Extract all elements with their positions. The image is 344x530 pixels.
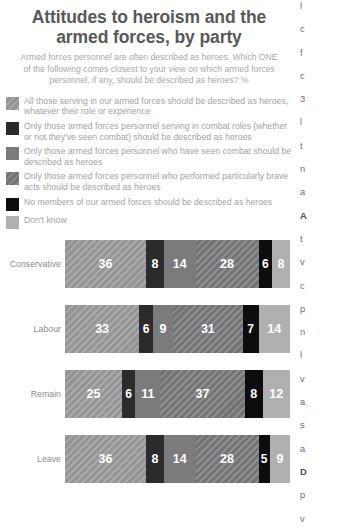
article-text-line: t <box>300 140 344 152</box>
article-text-line: l <box>300 0 344 12</box>
stacked-bar: 368142868 <box>65 240 290 288</box>
bar-chart-plot-area: Conservative368142868Labour336931714Rema… <box>0 240 298 483</box>
stacked-bar: 2561137812 <box>65 370 290 418</box>
article-text-line: a <box>300 186 344 198</box>
chart-container: Attitudes to heroism and the armed force… <box>0 0 298 530</box>
bar-segment: 6 <box>139 305 153 353</box>
bar-segment: 12 <box>263 370 290 418</box>
legend-swatch-icon <box>6 97 19 110</box>
legend-item: Don't know <box>6 215 292 229</box>
article-text-line: v <box>300 373 344 385</box>
bar-segment: 8 <box>146 240 164 288</box>
article-text-line: n <box>300 326 344 338</box>
legend-item: All those serving in our armed forces sh… <box>6 96 292 117</box>
bar-category-label: Conservative <box>0 259 65 269</box>
article-text-line: c <box>300 280 344 292</box>
article-text-line: a <box>300 396 344 408</box>
bar-segment: 11 <box>135 370 160 418</box>
article-text-line: D <box>300 466 344 478</box>
article-text-line: a <box>300 443 344 455</box>
article-text-line: s <box>300 419 344 431</box>
bar-segment: 8 <box>146 435 164 483</box>
article-text-line: l <box>300 116 344 128</box>
bar-segment: 5 <box>259 435 270 483</box>
bar-category-label: Labour <box>0 324 65 334</box>
legend-swatch-icon <box>6 216 19 229</box>
legend-item: Only those armed forces personnel who ha… <box>6 146 292 167</box>
bar-segment: 25 <box>65 370 122 418</box>
article-text-line: p <box>300 303 344 315</box>
legend-swatch-icon <box>6 147 19 160</box>
article-text-line: c <box>300 23 344 35</box>
legend-item: No members of our armed forces should be… <box>6 197 292 211</box>
legend-item-label: No members of our armed forces should be… <box>24 197 272 208</box>
chart-legend: All those serving in our armed forces sh… <box>6 96 292 229</box>
adjacent-article-column: lcfc3ltnaAtvcpnlvasaDpvra <box>300 0 344 530</box>
bar-segment: 28 <box>196 435 259 483</box>
bar-category-label: Leave <box>0 454 65 464</box>
bar-row: Remain2561137812 <box>0 370 298 418</box>
bar-segment: 36 <box>65 240 146 288</box>
legend-swatch-icon <box>6 122 19 135</box>
legend-item-label: All those serving in our armed forces sh… <box>24 96 292 117</box>
bar-segment: 31 <box>173 305 243 353</box>
article-text-line: c <box>300 70 344 82</box>
bar-segment: 9 <box>270 435 290 483</box>
article-text-line: l <box>300 349 344 361</box>
stacked-bar: 336931714 <box>65 305 290 353</box>
legend-item-label: Don't know <box>24 215 67 226</box>
bar-segment: 14 <box>164 435 196 483</box>
article-text-line: 3 <box>300 93 344 105</box>
bar-segment: 6 <box>122 370 136 418</box>
bar-segment: 9 <box>153 305 173 353</box>
legend-item-label: Only those armed forces personnel who ha… <box>24 146 292 167</box>
bar-segment: 28 <box>196 240 259 288</box>
article-text-line: A <box>300 210 344 222</box>
bar-segment: 37 <box>160 370 244 418</box>
legend-swatch-icon <box>6 172 19 185</box>
article-text-line: p <box>300 489 344 501</box>
bar-segment: 8 <box>272 240 290 288</box>
article-text-line: n <box>300 163 344 175</box>
page-title: Attitudes to heroism and the armed force… <box>22 7 276 47</box>
article-text-line: v <box>300 513 344 525</box>
article-text-line: t <box>300 233 344 245</box>
bar-category-label: Remain <box>0 389 65 399</box>
bar-segment: 8 <box>245 370 263 418</box>
bar-segment: 14 <box>259 305 291 353</box>
bar-segment: 14 <box>164 240 196 288</box>
legend-item: Only those armed forces personnel servin… <box>6 121 292 142</box>
bar-segment: 6 <box>259 240 273 288</box>
bar-segment: 33 <box>65 305 139 353</box>
article-text-line: v <box>300 256 344 268</box>
stacked-bar: 368142859 <box>65 435 290 483</box>
bar-segment: 36 <box>65 435 146 483</box>
bar-segment: 7 <box>243 305 259 353</box>
legend-item-label: Only those armed forces personnel who pe… <box>24 171 292 192</box>
legend-swatch-icon <box>6 198 19 211</box>
legend-item-label: Only those armed forces personnel servin… <box>24 121 292 142</box>
bar-row: Conservative368142868 <box>0 240 298 288</box>
bar-row: Leave368142859 <box>0 435 298 483</box>
bar-row: Labour336931714 <box>0 305 298 353</box>
legend-item: Only those armed forces personnel who pe… <box>6 171 292 192</box>
chart-subtitle: Armed forces personnel are often describ… <box>18 52 280 87</box>
article-text-line: f <box>300 47 344 59</box>
